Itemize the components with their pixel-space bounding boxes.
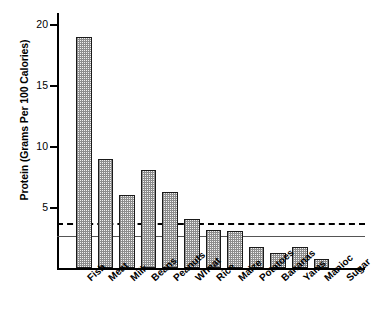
y-tick-label: 5 [42, 201, 48, 213]
y-tick-mark [50, 146, 57, 148]
bar-beans [141, 170, 157, 268]
y-tick-mark [50, 207, 57, 209]
y-axis-title: Protein (Grams Per 100 Calories) [18, 0, 36, 240]
y-tick-label: 10 [36, 140, 48, 152]
plot-area: 5101520 FishMeatMilkBeansPeanutsWheatRic… [57, 13, 365, 270]
bar-meat [98, 159, 114, 268]
y-axis-line [57, 13, 59, 270]
bar-fish [76, 37, 92, 268]
y-tick-mark [50, 85, 57, 87]
bar-milk [119, 195, 135, 268]
y-tick-label: 15 [36, 79, 48, 91]
protein-bar-chart-figure: Protein (Grams Per 100 Calories) 5101520… [0, 0, 371, 323]
y-tick-label: 20 [36, 18, 48, 30]
y-tick-mark [50, 24, 57, 26]
